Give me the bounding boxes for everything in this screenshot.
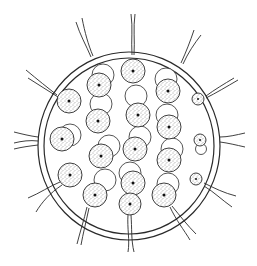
colony-illustration [0,0,257,266]
cells [50,59,206,215]
